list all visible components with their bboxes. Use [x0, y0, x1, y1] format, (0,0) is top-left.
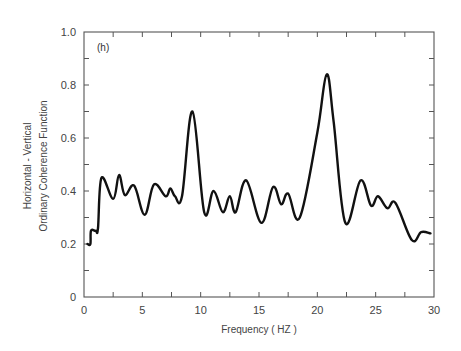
x-tick-label: 20 — [311, 304, 323, 316]
panel-label: (h) — [97, 42, 109, 53]
x-tick-label: 10 — [195, 304, 207, 316]
x-tick-label: 15 — [253, 304, 265, 316]
x-axis-title: Frequency ( HZ ) — [221, 324, 297, 335]
y-tick-label: 0.4 — [61, 185, 76, 197]
plot-frame — [84, 32, 434, 297]
y-tick-label: 1.0 — [61, 26, 76, 38]
y-tick-labels: 00.20.40.60.81.0 — [61, 26, 76, 303]
y-axis-title-line-2: Ordinary Coherence Function — [38, 100, 49, 231]
coherence-chart: 051015202530 00.20.40.60.81.0 (h) Freque… — [0, 0, 461, 351]
x-tick-labels: 051015202530 — [81, 304, 440, 316]
x-tick-label: 5 — [139, 304, 145, 316]
y-tick-label: 0.8 — [61, 79, 76, 91]
axis-ticks — [84, 32, 434, 297]
plot-border — [84, 32, 434, 297]
coherence-curve — [88, 74, 431, 245]
y-tick-label: 0.6 — [61, 132, 76, 144]
y-axis-title-line-1: Horizontal - Vertical — [22, 123, 33, 210]
y-tick-label: 0.2 — [61, 238, 76, 250]
y-tick-label: 0 — [70, 291, 76, 303]
x-tick-label: 30 — [428, 304, 440, 316]
x-tick-label: 0 — [81, 304, 87, 316]
x-tick-label: 25 — [370, 304, 382, 316]
